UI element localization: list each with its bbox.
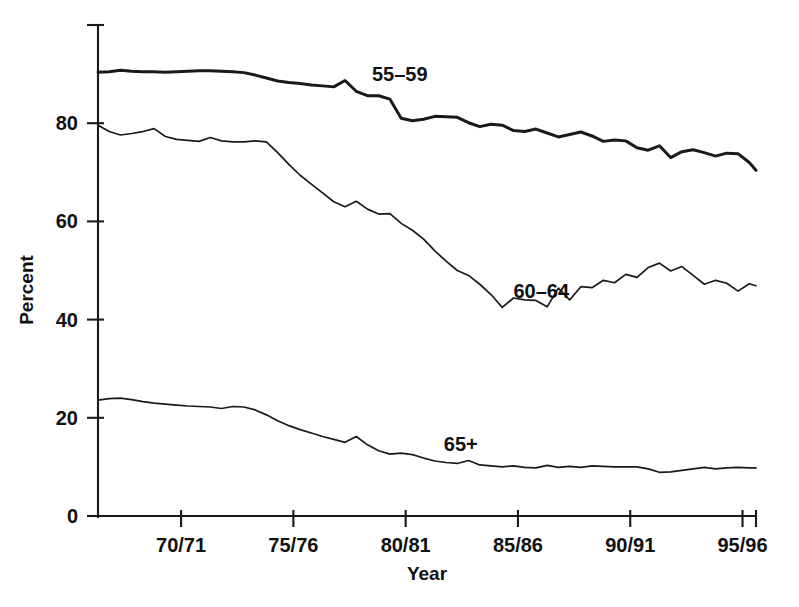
series-label-65-plus: 65+ <box>444 433 478 455</box>
x-tick-label: 95/96 <box>717 534 767 556</box>
chart-figure: 020406080 70/7175/7680/8185/8690/9195/96… <box>0 0 799 607</box>
x-axis-title: Year <box>407 563 448 584</box>
y-tick-label: 60 <box>56 210 78 232</box>
series-paths <box>98 70 756 472</box>
series-label-55-59: 55–59 <box>372 63 428 85</box>
y-tick-label: 80 <box>56 112 78 134</box>
x-tick-label: 75/76 <box>268 534 318 556</box>
y-tick-label: 20 <box>56 407 78 429</box>
line-chart: 020406080 70/7175/7680/8185/8690/9195/96… <box>0 0 799 607</box>
x-tick-label: 85/86 <box>493 534 543 556</box>
series-line-65+ <box>98 398 756 472</box>
x-tick-label: 70/71 <box>156 534 206 556</box>
series-line-60-64 <box>98 125 756 307</box>
y-tick-label: 0 <box>67 505 78 527</box>
series-label-60-64: 60–64 <box>513 280 569 302</box>
y-axis-title: Percent <box>16 254 37 324</box>
y-axis-ticks: 020406080 <box>56 25 104 527</box>
y-tick-label: 40 <box>56 309 78 331</box>
x-tick-label: 90/91 <box>605 534 655 556</box>
x-tick-label: 80/81 <box>381 534 431 556</box>
